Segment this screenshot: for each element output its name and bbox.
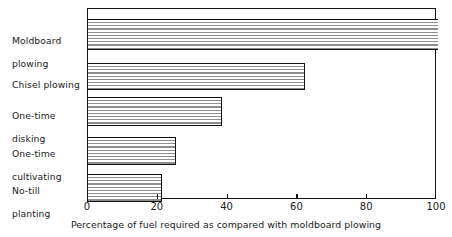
x-axis-tick-80: [366, 194, 367, 199]
bar-one-time-cultivating: [87, 137, 176, 165]
category-label-line1: Chisel plowing: [12, 79, 80, 90]
x-axis-tick-label-40: 40: [220, 201, 233, 213]
bar-no-till-planting: [87, 174, 162, 202]
x-axis-tick-label-100: 100: [426, 201, 445, 213]
plot-area: [87, 8, 436, 199]
x-axis-tick-label-80: 80: [360, 201, 373, 213]
bar-one-time-disking: [87, 97, 222, 126]
x-axis-tick-labels: 0 20 40 60 80 100: [87, 201, 436, 215]
x-axis-tick-label-0: 0: [84, 201, 90, 213]
x-axis-tick-label-60: 60: [290, 201, 303, 213]
category-label-no-till-planting: No-till planting: [12, 173, 86, 219]
category-label-line1: One-time: [12, 148, 56, 159]
x-axis-tick-60: [296, 194, 297, 199]
category-label-column: Moldboard plowing Chisel plowing One-tim…: [12, 0, 84, 237]
x-axis-tick-20: [157, 194, 158, 199]
category-label-line2: planting: [12, 208, 50, 219]
category-label-line1: No-till: [12, 185, 40, 196]
category-label-line1: Moldboard: [12, 35, 61, 46]
category-label-moldboard-plowing: Moldboard plowing: [12, 23, 86, 69]
x-axis-title: Percentage of fuel required as compared …: [0, 219, 452, 231]
x-axis-tick-40: [227, 194, 228, 199]
category-label-chisel-plowing: Chisel plowing: [12, 67, 86, 90]
bar-moldboard-plowing: [87, 19, 438, 50]
category-label-line1: One-time: [12, 110, 56, 121]
x-axis-tick-label-20: 20: [150, 201, 163, 213]
bar-chart-figure: Moldboard plowing Chisel plowing One-tim…: [0, 0, 452, 237]
bar-chisel-plowing: [87, 63, 305, 90]
